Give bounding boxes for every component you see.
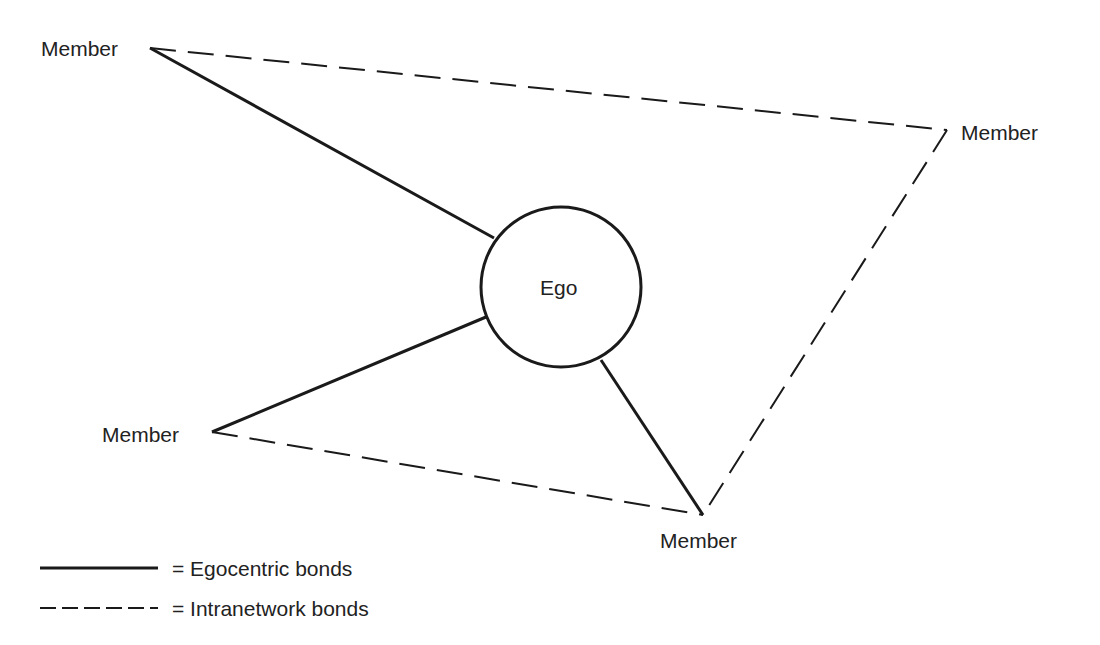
legend-intranetwork-label: = Intranetwork bonds xyxy=(172,598,369,619)
egocentric-bond-topleft xyxy=(150,48,494,238)
intranetwork-bond-right-bottom xyxy=(703,130,947,515)
member-label-left: Member xyxy=(102,424,179,445)
member-label-top-left: Member xyxy=(41,38,118,59)
member-label-right: Member xyxy=(961,122,1038,143)
intranetwork-bond-topleft-right xyxy=(150,48,947,130)
intranetwork-bond-left-bottom xyxy=(212,432,703,515)
egocentric-bond-left xyxy=(212,317,486,432)
member-label-bottom: Member xyxy=(660,530,737,551)
network-diagram xyxy=(0,0,1100,645)
ego-label: Ego xyxy=(540,277,577,298)
legend-egocentric-label: = Egocentric bonds xyxy=(172,558,352,579)
egocentric-bond-bottom xyxy=(601,360,703,515)
